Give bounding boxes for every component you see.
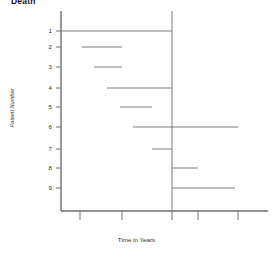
y-axis-tick-label-6: 6 [38, 124, 52, 130]
y-axis-tick-label-3: 3 [38, 64, 52, 70]
y-axis-tick-label-4: 4 [38, 85, 52, 91]
y-axis-tick-label-5: 5 [38, 104, 52, 110]
x-axis-label: Time in Years [0, 236, 273, 243]
y-axis-tick-label-2: 2 [38, 44, 52, 50]
chart-container: Death Patient Number 123456789 Time in Y… [0, 0, 273, 258]
y-axis-tick-label-7: 7 [38, 146, 52, 152]
y-axis-tick-label-1: 1 [38, 28, 52, 34]
y-axis-tick-label-9: 9 [38, 185, 52, 191]
y-axis-tick-label-8: 8 [38, 165, 52, 171]
